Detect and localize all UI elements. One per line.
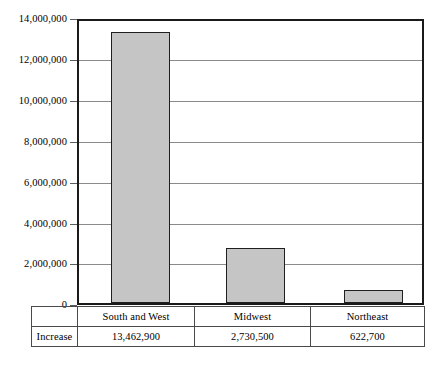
plot-area [77, 19, 424, 305]
bar-south-and-west [111, 32, 170, 303]
y-tick-mark-14000000 [70, 19, 77, 20]
value-cell-south-and-west: 13,462,900 [78, 327, 195, 347]
y-tick-mark-6000000 [70, 183, 77, 184]
y-tick-label-12000000: 12,000,000 [19, 55, 67, 66]
bar-northeast [344, 290, 403, 303]
y-tick-mark-2000000 [70, 264, 77, 265]
data-table: South and West Midwest Northeast Increas… [31, 306, 425, 347]
table-row-increase: Increase 13,462,900 2,730,500 622,700 [32, 327, 425, 347]
y-tick-label-2000000: 2,000,000 [24, 259, 67, 270]
y-tick-label-10000000: 10,000,000 [19, 96, 67, 107]
category-header-northeast: Northeast [311, 307, 425, 327]
value-cell-northeast: 622,700 [311, 327, 425, 347]
bar-chart-figure: 14,000,000 12,000,000 10,000,000 8,000,0… [0, 0, 445, 366]
y-tick-label-6000000: 6,000,000 [24, 178, 67, 189]
bar-midwest [226, 248, 285, 303]
table-row-categories: South and West Midwest Northeast [32, 307, 425, 327]
row-label-increase: Increase [32, 327, 78, 347]
y-tick-mark-12000000 [70, 60, 77, 61]
category-header-midwest: Midwest [195, 307, 311, 327]
y-tick-mark-8000000 [70, 142, 77, 143]
value-cell-midwest: 2,730,500 [195, 327, 311, 347]
y-tick-label-8000000: 8,000,000 [24, 137, 67, 148]
y-tick-mark-10000000 [70, 101, 77, 102]
y-tick-label-14000000: 14,000,000 [19, 14, 67, 25]
table-corner-blank [32, 307, 78, 327]
y-tick-mark-4000000 [70, 224, 77, 225]
category-header-south-and-west: South and West [78, 307, 195, 327]
y-tick-label-4000000: 4,000,000 [24, 219, 67, 230]
